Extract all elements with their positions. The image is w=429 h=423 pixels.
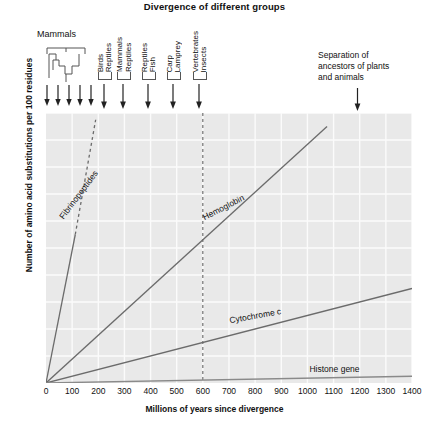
divergence-arrow-icon: [196, 84, 205, 110]
group-bracket: [193, 72, 207, 80]
divergence-group: ReptilesFish: [142, 72, 156, 80]
separation-arrow-icon: [354, 88, 361, 116]
group-bracket: [167, 72, 181, 80]
divergence-group: MammalsReptiles: [117, 72, 131, 80]
y-axis-title: Number of amino acid substitutions per 1…: [24, 40, 34, 290]
divergence-group-label: Insects: [200, 31, 208, 72]
divergence-group: CarpLamprey: [167, 72, 181, 80]
divergence-group: BirdsReptiles: [98, 72, 112, 80]
separation-note: Separation of ancestors of plants and an…: [318, 50, 389, 83]
mammals-phylogeny-icon: [45, 44, 87, 90]
mammals-group-label: Mammals: [37, 29, 76, 39]
divergence-group-label: Reptiles: [105, 43, 113, 72]
group-bracket: [98, 72, 112, 80]
divergence-group-label: Fish: [149, 43, 157, 72]
group-bracket: [142, 72, 156, 80]
group-bracket: [117, 72, 131, 80]
plot-area: FibrinopeptidesHemoglobinCytochrome cHis…: [46, 113, 412, 383]
divergence-group-label: Lamprey: [174, 41, 182, 72]
x-tick-label: 1400: [392, 386, 429, 396]
divergence-group-label: Reptiles: [124, 37, 132, 72]
divergence-arrow-icon: [100, 84, 109, 110]
mammals-arrow-group: [44, 85, 94, 107]
series-label-histone-gene: Histone gene: [309, 364, 359, 374]
chart-figure: Divergence of different groups Mammals: [0, 0, 429, 423]
separation-note-line-2: ancestors of plants: [318, 61, 389, 72]
x-axis-title: Millions of years since divergence: [0, 404, 429, 414]
divergence-group: VertebratesInsects: [193, 72, 207, 80]
separation-note-line-1: Separation of: [318, 50, 389, 61]
divergence-arrow-icon: [120, 84, 129, 110]
divergence-annotations: Mammals: [0, 0, 429, 113]
plot-canvas: [46, 113, 412, 383]
divergence-arrow-icon: [145, 84, 154, 110]
divergence-arrow-icon: [170, 84, 179, 110]
separation-note-line-3: and animals: [318, 72, 389, 83]
